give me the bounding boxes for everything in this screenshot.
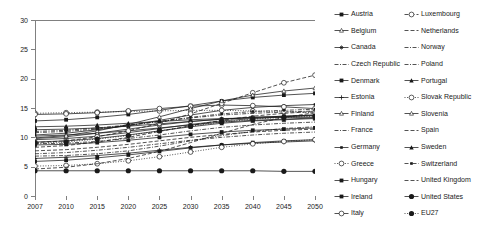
x-tick-label: 2050	[298, 203, 332, 210]
legend-item-label: Czech Republic	[351, 60, 400, 68]
x-tick-label: 2030	[174, 203, 208, 210]
legend-swatch	[404, 176, 419, 185]
x-tick-mark	[128, 196, 129, 200]
legend-item-label: Netherlands	[421, 27, 459, 35]
x-tick-label: 2010	[49, 203, 83, 210]
legend-swatch	[404, 60, 419, 69]
series-slovak-republic	[35, 137, 315, 168]
legend-swatch	[334, 26, 349, 35]
y-tick-label: 0	[2, 193, 28, 200]
legend-swatch	[334, 93, 349, 102]
x-tick-mark	[97, 196, 98, 200]
legend-swatch	[334, 143, 349, 152]
legend-item-france[interactable]: France	[334, 122, 406, 139]
y-tick-label: 5	[2, 163, 28, 170]
legend-item-hungary[interactable]: Hungary	[334, 172, 406, 189]
x-tick-mark	[222, 196, 223, 200]
legend-swatch	[334, 159, 349, 168]
legend-swatch	[404, 209, 419, 218]
legend-item-finland[interactable]: Finland	[334, 106, 406, 123]
legend-swatch	[404, 93, 419, 102]
legend-item-norway[interactable]: Norway	[404, 39, 476, 56]
legend-item-label: Finland	[351, 110, 374, 118]
legend-item-canada[interactable]: Canada	[334, 39, 406, 56]
legend-item-poland[interactable]: Poland	[404, 56, 476, 73]
x-tick-label: 2035	[205, 203, 239, 210]
x-tick-mark	[35, 196, 36, 200]
legend-swatch	[334, 10, 349, 19]
legend-item-label: United States	[421, 193, 463, 201]
legend-swatch	[334, 109, 349, 118]
x-tick-label: 2045	[267, 203, 301, 210]
legend-swatch	[404, 126, 419, 135]
legend-item-portugal[interactable]: Portugal	[404, 72, 476, 89]
y-tick-label: 30	[2, 17, 28, 24]
legend-item-slovak-republic[interactable]: Slovak Republic	[404, 89, 476, 106]
legend-item-label: Portugal	[421, 77, 447, 85]
x-tick-mark	[253, 196, 254, 200]
legend-item-label: Austria	[351, 10, 373, 18]
legend-item-label: Luxembourg	[421, 10, 460, 18]
legend-item-greece[interactable]: Greece	[334, 155, 406, 172]
legend-item-label: Italy	[351, 209, 364, 217]
y-tick-mark	[31, 49, 35, 50]
legend-item-netherlands[interactable]: Netherlands	[404, 23, 476, 40]
legend-swatch	[334, 76, 349, 85]
legend-item-eu27[interactable]: EU27	[404, 205, 476, 222]
legend-item-label: Switzerland	[421, 160, 457, 168]
legend-item-label: France	[351, 126, 373, 134]
legend-item-sweden[interactable]: Sweden	[404, 139, 476, 156]
legend-item-germany[interactable]: Germany	[334, 139, 406, 156]
x-tick-mark	[315, 196, 316, 200]
legend-item-czech-republic[interactable]: Czech Republic	[334, 56, 406, 73]
x-tick-label: 2040	[236, 203, 270, 210]
legend-swatch	[334, 43, 349, 52]
legend-column-left: AustriaBelgiumCanadaCzech RepublicDenmar…	[334, 6, 406, 222]
legend-item-switzerland[interactable]: Switzerland	[404, 155, 476, 172]
plot-series-layer	[35, 20, 315, 196]
legend-item-label: Denmark	[351, 77, 379, 85]
legend-swatch	[334, 60, 349, 69]
series-czech-republic	[35, 122, 315, 144]
legend-item-belgium[interactable]: Belgium	[334, 23, 406, 40]
legend-item-label: Belgium	[351, 27, 376, 35]
legend-item-label: Spain	[421, 126, 439, 134]
legend-item-label: United Kingdom	[421, 176, 471, 184]
x-tick-mark	[284, 196, 285, 200]
y-tick-mark	[31, 137, 35, 138]
x-tick-label: 2007	[18, 203, 52, 210]
chart-legend: AustriaBelgiumCanadaCzech RepublicDenmar…	[334, 6, 481, 232]
y-tick-label: 15	[2, 105, 28, 112]
legend-item-united-states[interactable]: United States	[404, 189, 476, 206]
legend-item-label: Poland	[421, 60, 443, 68]
legend-item-slovenia[interactable]: Slovenia	[404, 106, 476, 123]
legend-swatch	[404, 109, 419, 118]
legend-item-spain[interactable]: Spain	[404, 122, 476, 139]
legend-swatch	[334, 209, 349, 218]
legend-item-austria[interactable]: Austria	[334, 6, 406, 23]
legend-swatch	[404, 143, 419, 152]
legend-item-luxembourg[interactable]: Luxembourg	[404, 6, 476, 23]
legend-item-label: Slovenia	[421, 110, 448, 118]
legend-swatch	[404, 10, 419, 19]
series-ireland	[35, 138, 315, 164]
legend-column-right: LuxembourgNetherlandsNorwayPolandPortuga…	[404, 6, 476, 222]
legend-item-label: Estonia	[351, 93, 374, 101]
legend-item-italy[interactable]: Italy	[334, 205, 406, 222]
legend-item-estonia[interactable]: Estonia	[334, 89, 406, 106]
legend-item-united-kingdom[interactable]: United Kingdom	[404, 172, 476, 189]
y-tick-label: 20	[2, 75, 28, 82]
legend-item-label: Norway	[421, 43, 445, 51]
legend-item-label: Germany	[351, 143, 380, 151]
legend-item-ireland[interactable]: Ireland	[334, 189, 406, 206]
legend-swatch	[404, 192, 419, 201]
chart-screenshot: 0510152025302007201020152020202520302035…	[0, 0, 481, 237]
legend-item-label: Canada	[351, 43, 376, 51]
legend-item-label: Ireland	[351, 193, 372, 201]
series-italy	[35, 103, 315, 117]
legend-swatch	[404, 43, 419, 52]
legend-swatch	[334, 176, 349, 185]
legend-item-denmark[interactable]: Denmark	[334, 72, 406, 89]
legend-item-label: EU27	[421, 209, 439, 217]
legend-swatch	[404, 76, 419, 85]
